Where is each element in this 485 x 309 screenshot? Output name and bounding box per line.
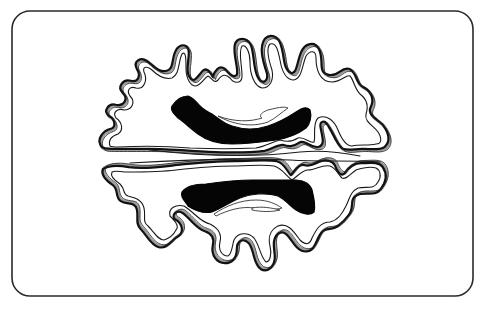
lower-hemisphere [102, 158, 388, 271]
lower-periventricular-lesion [181, 180, 314, 214]
brain-section-figure [0, 0, 485, 309]
upper-periventricular-lesion [171, 96, 310, 144]
